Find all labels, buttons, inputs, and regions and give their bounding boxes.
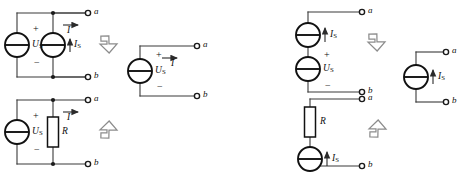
label-terminal-a-bottom-left: a [94,94,99,103]
circuit-vector-layer [0,0,469,177]
label-minus-bottom-left: − [34,145,40,155]
equivalence-arrow-top-left [100,36,117,53]
label-minus-top-middle: − [157,82,163,92]
label-current-I-bottom-left: I [67,113,70,123]
junction-dot-bottom [51,75,55,79]
equivalence-arrow-top-right [368,34,385,51]
terminal-a [359,96,364,101]
terminal-b [443,99,448,104]
terminal-a [443,49,448,54]
label-voltage-source-top-middle: US [155,66,166,76]
label-current-I-top-middle: I [171,59,174,69]
junction-dot-top [51,98,55,102]
label-terminal-b-bottom-right: b [368,160,373,169]
label-current-I-top-left: I [67,26,70,36]
label-plus-top-right: + [324,50,330,60]
label-terminal-a-far-right: a [452,46,457,55]
resistor-symbol [48,117,59,147]
terminal-a [85,97,90,102]
terminal-a [194,43,199,48]
label-voltage-source-top-left: US [32,40,43,50]
equivalence-arrow-bottom-left [100,121,117,138]
label-terminal-a-bottom-right: a [368,93,373,102]
label-current-source-top-right: IS [330,30,337,40]
label-voltage-source-top-right: US [323,64,334,74]
label-terminal-a-top-left: a [94,7,99,16]
label-minus-top-right: − [325,81,331,91]
label-terminal-a-top-right: a [368,6,373,15]
label-resistor-bottom-right: R [320,117,326,127]
terminal-b [85,74,90,79]
label-current-source-bottom-right: IS [332,154,339,164]
junction-dot-top [51,11,55,15]
terminal-a [359,9,364,14]
panel-bottom-left-original [5,97,91,166]
terminal-b [359,89,364,94]
label-plus-top-left: + [33,24,39,34]
label-terminal-b-top-left: b [94,71,99,80]
label-terminal-b-top-middle: b [203,90,208,99]
label-current-source-top-left: IS [74,40,81,50]
label-terminal-a-top-middle: a [203,40,208,49]
label-plus-bottom-left: + [33,111,39,121]
equivalence-arrow-bottom-right [369,120,386,137]
label-resistor-bottom-left: R [62,127,68,137]
label-terminal-b-far-right: b [452,96,457,105]
junction-dot-bottom [51,162,55,166]
terminal-b [194,93,199,98]
label-plus-top-middle: + [156,50,162,60]
label-voltage-source-bottom-left: US [32,127,43,137]
terminal-b [359,163,364,168]
label-current-source-far-right: IS [438,72,445,82]
circuit-diagram-sheet: a b + − US IS I a b + − US I a b + − US … [0,0,469,177]
terminal-a [85,10,90,15]
label-minus-top-left: − [34,58,40,68]
label-terminal-b-bottom-left: b [94,158,99,167]
resistor-symbol [305,107,316,137]
terminal-b [85,161,90,166]
